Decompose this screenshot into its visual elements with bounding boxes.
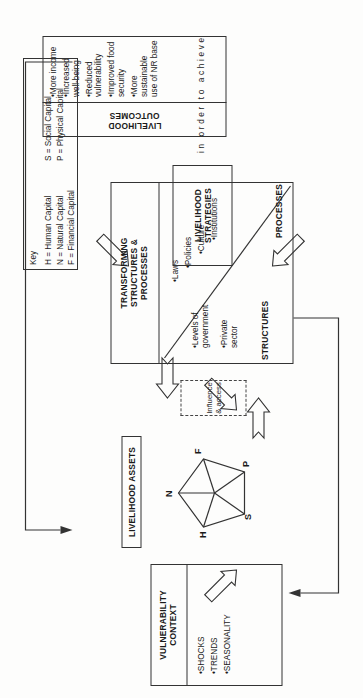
key-entry: N = Natural Capital — [55, 190, 67, 265]
key-entry: H = Human Capital — [43, 190, 55, 265]
outcome-item: Reduced vulnerability — [84, 39, 104, 97]
key-column-2: S = Social Capital P = Physical Capital — [43, 88, 66, 161]
key-column-1: H = Human Capital N = Natural Capital F … — [43, 190, 78, 265]
key-title: Key — [29, 251, 38, 265]
key-box-wrapper: Key H = Human Capital N = Natural Capita… — [23, 58, 78, 270]
key-entry: P = Physical Capital — [55, 88, 67, 161]
key-entry: F = Financial Capital — [66, 190, 78, 265]
key-entry: S = Social Capital — [43, 88, 55, 161]
tsp-processes-label: PROCESSES — [272, 184, 286, 272]
outcome-item: More sustainable use of NR base — [129, 39, 159, 97]
tsp-structures-label: STRUCTURES — [258, 274, 272, 360]
livelihood-strategies-label: LIVELIHOOD STRATEGIES — [172, 165, 232, 266]
outcome-item: Improved food security — [106, 39, 126, 97]
